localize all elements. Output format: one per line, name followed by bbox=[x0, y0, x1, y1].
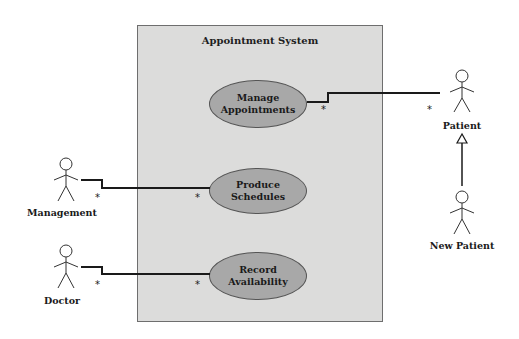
actor-label-management: Management bbox=[27, 207, 97, 218]
multiplicity-patient-actor: * bbox=[427, 104, 432, 115]
multiplicity-produce-usecase: * bbox=[195, 192, 200, 203]
generalization-arrowhead-icon bbox=[457, 134, 467, 143]
association-line-doctor bbox=[81, 267, 210, 274]
connectors-layer bbox=[0, 0, 519, 339]
actor-doctor-icon bbox=[54, 245, 78, 288]
association-line-management bbox=[81, 180, 210, 188]
multiplicity-management-actor: * bbox=[95, 192, 100, 203]
actor-label-new-patient: New Patient bbox=[430, 240, 495, 251]
multiplicity-manage-usecase: * bbox=[321, 104, 326, 115]
use-case-diagram: Appointment System Manage Appointments P… bbox=[0, 0, 519, 339]
actor-label-doctor: Doctor bbox=[44, 295, 80, 306]
actor-management-icon bbox=[54, 158, 78, 201]
association-line-patient bbox=[307, 93, 440, 102]
actor-new-patient-icon bbox=[450, 191, 474, 234]
multiplicity-doctor-actor: * bbox=[95, 279, 100, 290]
multiplicity-record-usecase: * bbox=[195, 279, 200, 290]
actor-label-patient: Patient bbox=[443, 120, 481, 131]
actor-patient-icon bbox=[450, 70, 474, 112]
